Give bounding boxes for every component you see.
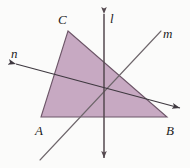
line-label-n: n (11, 47, 18, 60)
vertex-label-C: C (58, 13, 67, 26)
line-label-m: m (163, 27, 172, 40)
figure-canvas (0, 0, 190, 168)
vertex-label-B: B (166, 124, 174, 137)
geometry-figure: C l m n A B (0, 0, 190, 168)
line-label-l: l (110, 12, 114, 25)
vertex-label-A: A (35, 124, 43, 137)
